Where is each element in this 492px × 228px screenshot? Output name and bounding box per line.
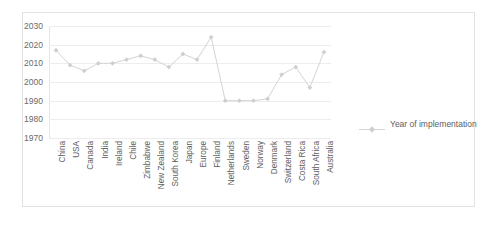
x-tick-zimbabwe: Zimbabwe bbox=[144, 141, 152, 179]
x-tick-south-korea: South Korea bbox=[172, 141, 180, 187]
data-point bbox=[237, 98, 242, 103]
data-point bbox=[223, 98, 228, 103]
legend-label: Year of implementation bbox=[390, 119, 477, 129]
gridline-1970 bbox=[49, 138, 331, 139]
x-tick-netherlands: Netherlands bbox=[228, 141, 236, 185]
x-tick-switzerland: Switzerland bbox=[285, 141, 293, 183]
plot-area: 2030202020102000199019801970 ChinaUSACan… bbox=[49, 26, 331, 138]
data-point bbox=[322, 50, 327, 55]
y-tick-1970: 1970 bbox=[24, 134, 43, 143]
x-tick-chile: Chile bbox=[130, 141, 138, 160]
legend-marker-icon bbox=[359, 120, 385, 129]
x-tick-new-zealand: New Zealand bbox=[158, 141, 166, 189]
x-tick-ireland: Ireland bbox=[116, 141, 124, 166]
data-point bbox=[124, 57, 129, 62]
data-point bbox=[251, 98, 256, 103]
y-tick-2010: 2010 bbox=[24, 59, 43, 68]
data-point bbox=[209, 35, 214, 40]
chart-container: 2030202020102000199019801970 ChinaUSACan… bbox=[22, 12, 475, 207]
x-tick-norway: Norway bbox=[257, 141, 265, 169]
y-tick-2020: 2020 bbox=[24, 40, 43, 49]
data-point bbox=[195, 57, 200, 62]
legend: Year of implementation bbox=[359, 119, 477, 129]
data-point bbox=[265, 96, 270, 101]
data-point bbox=[152, 57, 157, 62]
x-tick-denmark: Denmark bbox=[271, 141, 279, 174]
x-tick-australia: Australia bbox=[327, 141, 335, 173]
x-tick-costa-rica: Costa Rica bbox=[299, 141, 307, 181]
y-tick-1990: 1990 bbox=[24, 96, 43, 105]
data-point bbox=[82, 68, 87, 73]
x-tick-finland: Finland bbox=[214, 141, 222, 168]
series-year-of-implementation bbox=[49, 26, 331, 138]
data-point bbox=[96, 61, 101, 66]
x-tick-europe: Europe bbox=[200, 141, 208, 167]
x-tick-south-africa: South Africa bbox=[313, 141, 321, 185]
data-point bbox=[138, 53, 143, 58]
x-tick-japan: Japan bbox=[186, 141, 194, 163]
y-tick-2000: 2000 bbox=[24, 78, 43, 87]
x-tick-sweden: Sweden bbox=[243, 141, 251, 171]
x-tick-china: China bbox=[59, 141, 67, 162]
x-tick-canada: Canada bbox=[87, 141, 95, 170]
data-point bbox=[110, 61, 115, 66]
x-tick-india: India bbox=[102, 141, 110, 159]
y-tick-2030: 2030 bbox=[24, 22, 43, 31]
data-point bbox=[279, 72, 284, 77]
y-tick-1980: 1980 bbox=[24, 115, 43, 124]
x-tick-usa: USA bbox=[73, 141, 81, 158]
